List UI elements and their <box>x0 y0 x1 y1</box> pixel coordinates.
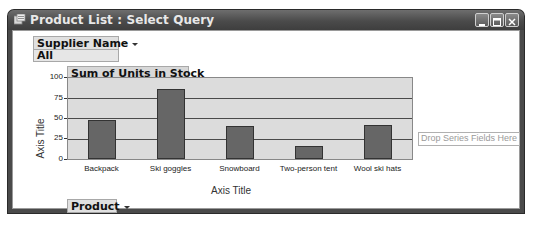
window-title: Product List : Select Query <box>30 13 214 27</box>
maximize-icon <box>491 16 503 28</box>
bar-snowboard[interactable] <box>226 126 254 159</box>
x-category-label: Backpack <box>67 164 136 173</box>
minimize-button[interactable] <box>475 13 489 27</box>
x-category-label: Wool ski hats <box>343 164 412 173</box>
gridline <box>68 118 412 119</box>
dropdown-arrow-icon <box>124 206 130 209</box>
title-bar[interactable]: Product List : Select Query <box>8 10 524 30</box>
maximize-button[interactable] <box>490 13 504 27</box>
close-icon <box>506 16 518 28</box>
close-button[interactable] <box>505 13 519 27</box>
pivot-chart-area: Supplier Name All Sum of Units in Stock … <box>12 30 520 209</box>
category-field-label: Product <box>71 200 120 213</box>
y-tick-label: 75 <box>43 93 63 102</box>
bar-ski-goggles[interactable] <box>157 89 185 159</box>
supplier-name-filter-button[interactable]: Supplier Name <box>33 36 119 50</box>
y-tick-label: 0 <box>43 154 63 163</box>
bar-backpack[interactable] <box>88 120 116 159</box>
bar-wool-ski-hats[interactable] <box>364 125 392 159</box>
y-tick-label: 100 <box>43 72 63 81</box>
y-tick-label: 25 <box>43 133 63 142</box>
x-category-label: Ski goggles <box>136 164 205 173</box>
dropdown-arrow-icon <box>132 43 138 46</box>
x-category-label: Two-person tent <box>274 164 343 173</box>
plot-area[interactable] <box>67 77 413 160</box>
y-tick-label: 50 <box>43 113 63 122</box>
x-axis-title[interactable]: Axis Title <box>211 185 251 196</box>
minimize-icon <box>476 16 488 28</box>
filter-value: All <box>33 49 119 62</box>
query-window: Product List : Select Query Supplier Nam… <box>8 10 524 213</box>
x-category-label: Snowboard <box>205 164 274 173</box>
gridline <box>68 98 412 99</box>
bar-two-person-tent[interactable] <box>295 146 323 159</box>
query-icon <box>14 14 26 25</box>
product-category-button[interactable]: Product <box>67 199 117 213</box>
series-drop-zone[interactable]: Drop Series Fields Here <box>418 132 520 146</box>
